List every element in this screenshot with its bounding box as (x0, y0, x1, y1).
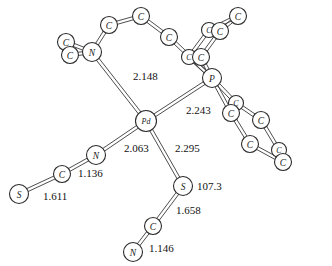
measurement-labels-layer: 2.1482.2432.0632.2951.1361.611107.31.658… (43, 70, 222, 254)
atom-c: C (193, 49, 210, 66)
atom-n: N (83, 43, 102, 62)
c17-s1-bond-length: 1.611 (43, 190, 67, 202)
structure-figure: PdNCCCCCPCCCCCCCCCCCNCSSCN 2.1482.2432.0… (0, 0, 332, 266)
atom-c: C (161, 29, 178, 46)
pd-s2-c18-angle: 107.3 (197, 180, 222, 192)
molecule-canvas: PdNCCCCCPCCCCCCCCCCCNCSSCN 2.1482.2432.0… (0, 0, 332, 266)
bond (94, 55, 144, 117)
atom-p: P (203, 69, 222, 88)
atom-c: C (253, 112, 270, 129)
c18-n3-bond-length: 1.146 (149, 242, 174, 254)
s2-c18-bond-length: 1.658 (176, 204, 201, 216)
atom-s: S (10, 185, 29, 204)
atom-c: C (242, 136, 259, 153)
atom-c: C (230, 8, 247, 25)
atom-c: C (62, 47, 79, 64)
atom-c: C (101, 17, 118, 34)
pd-n2-bond-length: 2.063 (124, 142, 149, 154)
atom-c: C (223, 105, 240, 122)
atom-n: N (87, 146, 106, 165)
pd-s2-bond-length: 2.295 (175, 142, 200, 154)
atoms-layer: PdNCCCCCPCCCCCCCCCCCNCSSCN (10, 8, 292, 262)
atom-c: C (54, 166, 71, 183)
pd-p-bond-length: 2.243 (186, 104, 211, 116)
atom-n: N (124, 243, 143, 262)
pd-n1-bond-length: 2.148 (133, 70, 158, 82)
atom-c: C (212, 23, 229, 40)
atom-c: C (275, 154, 292, 171)
atom-c: C (133, 8, 150, 25)
n2-c17-bond-length: 1.136 (78, 167, 103, 179)
atom-pd: Pd (136, 111, 157, 132)
atom-c: C (145, 218, 162, 235)
atom-s: S (174, 177, 193, 196)
